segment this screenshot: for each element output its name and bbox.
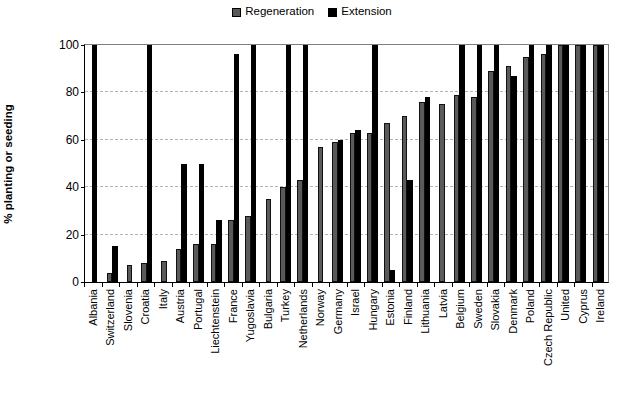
gray-square-icon — [232, 8, 241, 17]
bar-group — [589, 45, 606, 282]
x-label-cell: Denmark — [504, 289, 522, 389]
x-tick-label: Liechtenstein — [210, 289, 221, 354]
x-tick-label: Ireland — [595, 289, 606, 323]
bar-extension — [355, 130, 361, 282]
plot-area: 020406080100 — [84, 44, 609, 283]
bar-extension — [199, 164, 205, 283]
bar-group — [225, 45, 242, 282]
x-tick-mark — [522, 283, 540, 288]
x-tick-label: Netherlands — [297, 289, 308, 348]
bar-group — [103, 45, 120, 282]
bar-extension — [598, 45, 604, 282]
legend-label-extension: Extension — [341, 6, 392, 18]
x-tick-label: Bulgaria — [262, 289, 273, 329]
x-tick-mark — [557, 283, 575, 288]
bar-extension — [407, 180, 413, 282]
y-tick-label-100: 100 — [59, 38, 79, 52]
bar-regeneration — [318, 147, 324, 282]
x-tick-label: Portugal — [192, 289, 203, 330]
y-axis-title: % planting or seeding — [2, 44, 16, 284]
x-label-cell: Slovenia — [119, 289, 137, 389]
x-tick-label: United — [560, 289, 571, 321]
x-tick-mark — [259, 283, 277, 288]
x-tick-label: Albania — [87, 289, 98, 326]
x-label-cell: Finland — [399, 289, 417, 389]
bar-group — [468, 45, 485, 282]
x-tick-mark — [154, 283, 172, 288]
x-tick-mark — [434, 283, 452, 288]
x-tick-label: Turkey — [280, 289, 291, 322]
bar-group — [381, 45, 398, 282]
bar-group — [173, 45, 190, 282]
bar-group — [520, 45, 537, 282]
x-tick-mark — [504, 283, 522, 288]
bar-group — [537, 45, 554, 282]
plot-area-wrapper: 020406080100 — [84, 44, 609, 283]
x-label-cell: Bulgaria — [259, 289, 277, 389]
legend-entry-extension: Extension — [328, 6, 392, 18]
x-tick-mark — [189, 283, 207, 288]
x-tick-label: Norway — [315, 289, 326, 326]
bar-regeneration — [384, 123, 390, 282]
bar-extension — [529, 45, 535, 282]
x-axis-ticks — [84, 283, 609, 288]
x-label-cell: Estonia — [382, 289, 400, 389]
x-tick-mark — [347, 283, 365, 288]
bar-group — [242, 45, 259, 282]
bar-series-container — [85, 45, 608, 282]
y-tick-label-80: 80 — [66, 85, 79, 99]
bar-chart: Regeneration Extension % planting or see… — [0, 0, 624, 396]
x-tick-label: Switzerland — [105, 289, 116, 346]
x-label-cell: Poland — [522, 289, 540, 389]
bar-group — [138, 45, 155, 282]
bar-extension — [390, 270, 396, 282]
bar-extension — [112, 246, 118, 282]
bar-group — [346, 45, 363, 282]
x-tick-mark — [207, 283, 225, 288]
bar-group — [121, 45, 138, 282]
x-tick-label: Israel — [350, 289, 361, 316]
x-tick-mark — [417, 283, 435, 288]
x-tick-mark — [224, 283, 242, 288]
x-tick-label: Czech Republic — [542, 289, 553, 366]
x-tick-label: Austria — [175, 289, 186, 323]
bar-group — [277, 45, 294, 282]
legend-entry-regeneration: Regeneration — [232, 6, 314, 18]
bar-group — [208, 45, 225, 282]
bar-extension — [216, 220, 222, 282]
x-label-cell: Albania — [84, 289, 102, 389]
x-label-cell: Liechtenstein — [207, 289, 225, 389]
x-tick-label: Hungary — [367, 289, 378, 331]
bar-group — [364, 45, 381, 282]
bar-regeneration — [439, 104, 445, 282]
x-tick-mark — [452, 283, 470, 288]
x-label-cell: Ireland — [592, 289, 610, 389]
x-tick-mark — [172, 283, 190, 288]
x-tick-mark — [137, 283, 155, 288]
chart-legend: Regeneration Extension — [0, 4, 624, 20]
x-label-cell: Hungary — [364, 289, 382, 389]
y-tick-label-40: 40 — [66, 180, 79, 194]
x-tick-label: Finland — [402, 289, 413, 325]
bar-extension — [546, 45, 552, 282]
bar-group — [485, 45, 502, 282]
x-tick-label: Yugoslavia — [245, 289, 256, 342]
bar-group — [503, 45, 520, 282]
x-tick-mark — [312, 283, 330, 288]
bar-group — [294, 45, 311, 282]
x-tick-label: Denmark — [507, 289, 518, 334]
x-tick-mark — [399, 283, 417, 288]
bar-extension — [494, 45, 500, 282]
x-tick-label: Germany — [332, 289, 343, 334]
x-label-cell: Italy — [154, 289, 172, 389]
x-tick-label: Italy — [157, 289, 168, 309]
bar-extension — [303, 45, 309, 282]
x-tick-mark — [84, 283, 102, 288]
x-tick-mark — [364, 283, 382, 288]
x-label-cell: Germany — [329, 289, 347, 389]
x-tick-mark — [574, 283, 592, 288]
bar-regeneration — [161, 261, 167, 282]
x-tick-mark — [487, 283, 505, 288]
x-label-cell: Portugal — [189, 289, 207, 389]
x-label-cell: Austria — [172, 289, 190, 389]
